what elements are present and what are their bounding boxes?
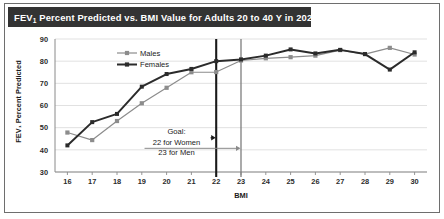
xtick-label: 20 — [162, 177, 170, 186]
data-point-females-bmi-20 — [165, 72, 169, 76]
data-point-females-bmi-23 — [239, 57, 243, 61]
xtick-label: 22 — [212, 177, 220, 186]
x-axis-title: BMI — [234, 191, 248, 200]
data-point-females-bmi-18 — [115, 112, 119, 116]
page-title: FEV1 Percent Predicted vs. BMI Value for… — [14, 12, 318, 23]
data-point-females-bmi-19 — [140, 85, 144, 89]
xtick-label: 24 — [262, 177, 271, 186]
xtick-label: 23 — [237, 177, 245, 186]
xtick-label: 26 — [311, 177, 319, 186]
data-point-females-bmi-16 — [65, 143, 69, 147]
ytick-label: 30 — [40, 168, 48, 177]
data-point-females-bmi-29 — [388, 68, 392, 72]
ytick-label: 40 — [40, 146, 48, 155]
legend-label-males: Males — [140, 49, 160, 58]
data-point-males-bmi-20 — [165, 86, 169, 90]
ytick-label: 90 — [40, 35, 48, 44]
legend-marker-females — [125, 62, 129, 66]
data-point-males-bmi-22 — [214, 70, 218, 74]
xtick-label: 28 — [361, 177, 369, 186]
data-point-females-bmi-21 — [189, 67, 193, 71]
data-point-males-bmi-25 — [289, 55, 293, 59]
ytick-label: 60 — [40, 101, 48, 110]
data-point-females-bmi-30 — [413, 50, 417, 54]
data-point-females-bmi-26 — [313, 51, 317, 55]
xtick-label: 18 — [113, 177, 121, 186]
goal-annotation-line-1: Goal: — [167, 127, 185, 136]
data-point-males-bmi-29 — [388, 46, 392, 50]
y-axis-title: FEV₁ Percent Predicted — [14, 60, 23, 143]
goal-annotation-line-3: 23 for Men — [158, 148, 194, 157]
data-point-females-bmi-24 — [264, 54, 268, 58]
goal-annotation-line-2: 22 for Women — [153, 138, 201, 147]
legend-label-females: Females — [140, 60, 169, 69]
xtick-label: 17 — [88, 177, 96, 186]
xtick-label: 27 — [336, 177, 344, 186]
data-point-females-bmi-28 — [363, 52, 367, 56]
xtick-label: 25 — [286, 177, 294, 186]
data-point-females-bmi-17 — [90, 120, 94, 124]
ytick-label: 70 — [40, 79, 48, 88]
data-point-males-bmi-18 — [115, 119, 119, 123]
figure-root: FEV1 Percent Predicted vs. BMI Value for… — [0, 0, 444, 219]
title-prefix: FEV — [14, 12, 33, 23]
xtick-label: 19 — [138, 177, 146, 186]
ytick-label: 50 — [40, 123, 48, 132]
data-point-males-bmi-19 — [140, 101, 144, 105]
data-point-males-bmi-16 — [65, 130, 69, 134]
plot-area: 3040506070809016171819202122232425262728… — [8, 29, 436, 210]
xtick-label: 29 — [386, 177, 394, 186]
chart-title-bar: FEV1 Percent Predicted vs. BMI Value for… — [8, 7, 311, 27]
ytick-label: 80 — [40, 57, 48, 66]
title-rest: Percent Predicted vs. BMI Value for Adul… — [37, 12, 318, 23]
xtick-label: 16 — [63, 177, 71, 186]
xtick-label: 21 — [187, 177, 195, 186]
legend-marker-males — [125, 51, 129, 55]
data-point-females-bmi-25 — [289, 47, 293, 51]
line-chart: 3040506070809016171819202122232425262728… — [8, 29, 436, 210]
title-subscript: 1 — [33, 17, 37, 24]
data-point-males-bmi-17 — [90, 138, 94, 142]
data-point-females-bmi-22 — [214, 59, 218, 63]
xtick-label: 30 — [410, 177, 418, 186]
data-point-females-bmi-27 — [338, 48, 342, 52]
